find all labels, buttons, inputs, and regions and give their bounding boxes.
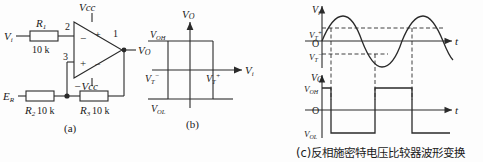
transition-guides	[331, 28, 412, 100]
label-r2: R2	[24, 104, 36, 118]
label-vo-axis: VO	[182, 8, 195, 21]
opamp-noninverting-sign: +	[80, 57, 86, 69]
label-r3: R3	[79, 104, 91, 118]
label-vi-axis-waveform: Vi	[312, 4, 320, 17]
label-r1-value: 10 k	[32, 44, 50, 55]
label-vt-minus-waveform: VT−	[309, 51, 322, 63]
label-pin-2: 2	[65, 21, 70, 32]
resistor-r1-body	[30, 31, 58, 41]
label-vcc-positive: Vcc	[79, 1, 96, 13]
transfer-characteristic-plot: VO Vi VOH VOL VT− VT+ (b)	[145, 8, 254, 131]
opamp-supply-minus-sign: −	[95, 59, 101, 70]
opamp-supply-plus-sign: +	[95, 29, 101, 40]
arrow-vi-axis	[234, 67, 242, 74]
label-voh-waveform: VOH	[304, 84, 319, 95]
circuit-labels: Vi R1 10 k 2 3 1 − + + − Vcc −Vcc VO ER …	[2, 1, 151, 135]
label-r1: R1	[35, 17, 46, 31]
label-origin-output: O	[312, 105, 319, 116]
resistor-r2-body	[26, 91, 54, 101]
caption-c: (c)反相施密特电压比较器波形变换	[296, 146, 466, 160]
figure-schmitt-trigger: Vi R1 10 k 2 3 1 − + + − Vcc −Vcc VO ER …	[0, 0, 483, 162]
label-r3-value: 10 k	[92, 105, 110, 116]
label-vo-output: VO	[138, 44, 151, 57]
arrow-t-axis-input	[445, 38, 453, 44]
caption-a: (a)	[64, 122, 77, 135]
resistor-r3-body	[80, 91, 108, 101]
output-waveform-plot: VO t VOH O VOL	[304, 72, 459, 140]
arrow-t-axis-output	[445, 107, 453, 113]
label-vi: Vi	[4, 30, 13, 44]
label-t-axis-output: t	[455, 104, 459, 116]
label-vt-minus: VT−	[145, 72, 160, 85]
label-origin-input: O	[312, 38, 319, 49]
label-pin-1: 1	[113, 28, 118, 39]
label-vol-waveform: VOL	[304, 129, 318, 140]
label-r2-value: 10 k	[37, 105, 55, 116]
arrow-vo-axis	[187, 22, 194, 30]
label-vol: VOL	[151, 103, 166, 115]
input-waveform-plot: Vi t VT+ O VT−	[305, 4, 459, 100]
label-pin-3: 3	[63, 51, 68, 62]
label-vi-axis: Vi	[245, 64, 254, 78]
label-vcc-negative: −Vcc	[74, 80, 98, 92]
label-er: ER	[2, 90, 15, 104]
figure-svg: Vi R1 10 k 2 3 1 − + + − Vcc −Vcc VO ER …	[0, 0, 483, 162]
opamp-inverting-sign: −	[80, 32, 86, 44]
label-voh: VOH	[150, 29, 166, 41]
label-vo-axis-waveform: VO	[311, 72, 323, 84]
caption-b: (b)	[186, 118, 199, 131]
label-t-axis-input: t	[455, 35, 459, 47]
